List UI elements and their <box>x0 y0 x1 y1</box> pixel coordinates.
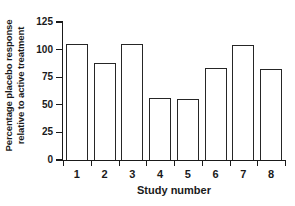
x-tick <box>257 161 258 166</box>
y-tick <box>56 159 62 160</box>
x-tick <box>63 161 64 166</box>
x-tick <box>119 161 120 166</box>
y-tick <box>56 104 62 105</box>
y-tick-label: 50 <box>13 100 53 110</box>
bar <box>260 69 282 160</box>
plot-area <box>63 22 285 160</box>
x-axis-title: Study number <box>63 184 285 196</box>
x-tick-label: 3 <box>118 168 146 180</box>
y-tick <box>56 21 62 22</box>
y-tick-label: 125 <box>13 17 53 27</box>
bar-chart: Percentage placebo response relative to … <box>0 0 295 206</box>
y-tick-label: 75 <box>13 72 53 82</box>
x-tick-label: 2 <box>91 168 119 180</box>
bar <box>205 68 227 160</box>
x-tick-label: 8 <box>257 168 285 180</box>
y-tick <box>56 77 62 78</box>
y-tick-label: 100 <box>13 45 53 55</box>
y-tick-label: 0 <box>13 155 53 165</box>
bar <box>121 44 143 160</box>
bar <box>232 45 254 160</box>
y-tick-label: 25 <box>13 127 53 137</box>
bar <box>66 44 88 160</box>
x-tick <box>285 161 286 166</box>
bar <box>177 99 199 160</box>
x-tick-label: 7 <box>229 168 257 180</box>
x-tick <box>202 161 203 166</box>
x-tick <box>174 161 175 166</box>
x-tick-label: 4 <box>146 168 174 180</box>
y-tick <box>56 49 62 50</box>
x-tick-label: 5 <box>174 168 202 180</box>
x-tick <box>146 161 147 166</box>
x-tick <box>230 161 231 166</box>
x-tick-label: 1 <box>63 168 91 180</box>
bar <box>94 63 116 160</box>
y-tick <box>56 132 62 133</box>
x-tick <box>91 161 92 166</box>
bar <box>149 98 171 160</box>
x-tick-label: 6 <box>202 168 230 180</box>
